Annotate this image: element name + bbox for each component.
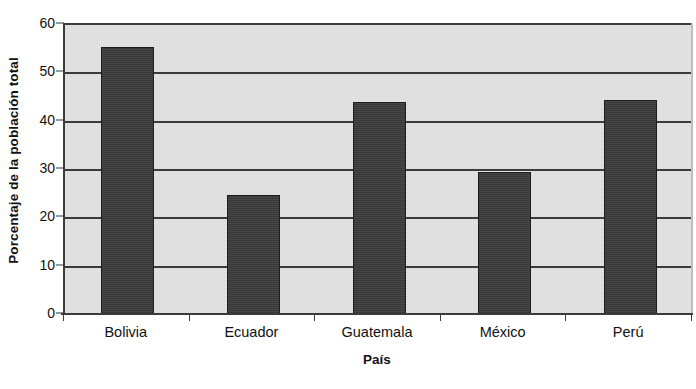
x-axis-tick-label: Ecuador bbox=[224, 325, 278, 341]
x-axis-tick-label: Perú bbox=[613, 325, 644, 341]
y-axis-tick-mark bbox=[56, 119, 64, 120]
y-axis-tick-mark bbox=[56, 168, 64, 169]
bar-ecuador bbox=[227, 195, 280, 315]
x-axis-tick-mark bbox=[565, 313, 566, 321]
x-axis-tick-label: México bbox=[480, 325, 526, 341]
y-axis-tick-mark bbox=[56, 264, 64, 265]
y-axis-tick-mark bbox=[56, 23, 64, 24]
x-axis-tick-mark bbox=[63, 313, 64, 321]
bar-m-xico bbox=[478, 172, 531, 315]
bar-per- bbox=[604, 100, 657, 315]
x-axis-tick-mark bbox=[314, 313, 315, 321]
y-axis-tick-label: 20 bbox=[25, 209, 55, 223]
x-axis-line bbox=[61, 313, 693, 315]
y-axis-tick-mark bbox=[56, 71, 64, 72]
plot-area bbox=[63, 23, 693, 315]
y-axis-tick-label: 0 bbox=[25, 306, 55, 320]
y-axis-tick-label: 30 bbox=[25, 161, 55, 175]
y-axis-tick-mark bbox=[56, 216, 64, 217]
x-axis-title: País bbox=[63, 352, 691, 367]
y-axis-tick-label: 50 bbox=[25, 64, 55, 78]
gridline bbox=[65, 72, 693, 74]
y-axis-title-text: Porcentaje de la población total bbox=[6, 57, 21, 264]
bar-chart-figure: Porcentaje de la población total 6050403… bbox=[0, 0, 696, 389]
y-axis-title: Porcentaje de la población total bbox=[0, 0, 26, 320]
x-axis-tick-mark bbox=[440, 313, 441, 321]
y-axis-tick-label: 10 bbox=[25, 258, 55, 272]
x-axis-tick-label: Guatemala bbox=[342, 325, 413, 341]
plot-right-border bbox=[691, 23, 693, 315]
x-axis-tick-mark bbox=[189, 313, 190, 321]
y-axis-tick-label-group: 6050403020100 bbox=[26, 0, 59, 389]
bar-bolivia bbox=[101, 47, 154, 315]
y-axis-tick-label: 60 bbox=[25, 16, 55, 30]
bar-guatemala bbox=[353, 102, 406, 315]
y-axis-tick-label: 40 bbox=[25, 113, 55, 127]
x-axis-tick-label: Bolivia bbox=[104, 325, 147, 341]
x-axis-tick-mark bbox=[691, 313, 692, 321]
